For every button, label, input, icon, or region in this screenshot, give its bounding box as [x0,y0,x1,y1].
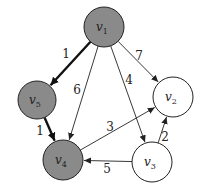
edge-weight-label: 2 [161,130,169,144]
edge-v5-v4 [45,117,55,140]
edge-weight-label: 3 [106,120,114,134]
node-v3: v3 [132,142,172,182]
edge-weight-label: 7 [135,49,143,63]
edge-weight-label: 6 [73,83,81,97]
edge-weight-label: 5 [103,162,111,176]
graph-diagram: v1v2v3v4v5 16471325 [0,0,203,194]
graph-svg: v1v2v3v4v5 16471325 [0,0,203,194]
node-v1: v1 [84,7,124,47]
node-v2: v2 [153,77,193,117]
node-v4: v4 [43,140,83,180]
nodes-layer: v1v2v3v4v5 [18,7,193,182]
edge-weight-label: 1 [62,47,70,61]
edge-weight-label: 1 [36,124,44,138]
edge-weight-label: 4 [125,73,133,87]
edge-v1-v5 [51,42,91,86]
node-v5: v5 [18,81,56,119]
